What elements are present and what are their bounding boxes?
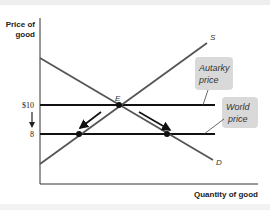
world-callout-leader [204, 119, 224, 134]
demand-world-point [164, 131, 170, 137]
world-callout-line2: price [227, 114, 248, 124]
supply-curve [40, 43, 207, 164]
autarky-callout-line1: Autarky [198, 63, 230, 73]
supply-movement-arrow [80, 112, 101, 128]
world-callout-line1: World [226, 102, 250, 112]
chart-frame: Price of good Quantity of good $10 8 S D… [0, 0, 270, 210]
price-drop-arrow-icon [29, 122, 35, 128]
y-axis-title-line2: good [15, 30, 35, 39]
autarky-callout-leader [203, 90, 208, 105]
supply-world-point [76, 131, 82, 137]
chart-svg: Price of good Quantity of good $10 8 S D… [0, 0, 270, 210]
autarky-callout-box [195, 57, 233, 90]
equilibrium-label: E [115, 94, 121, 103]
equilibrium-point [116, 102, 122, 108]
tick-8: 8 [30, 130, 34, 139]
y-axis-title-line1: Price of [6, 20, 36, 29]
x-axis-title: Quantity of good [194, 190, 258, 199]
supply-label: S [210, 33, 216, 42]
autarky-callout-line2: price [198, 75, 219, 85]
demand-movement-arrow [139, 112, 170, 130]
tick-10: $10 [22, 101, 34, 110]
demand-label: D [216, 158, 222, 167]
